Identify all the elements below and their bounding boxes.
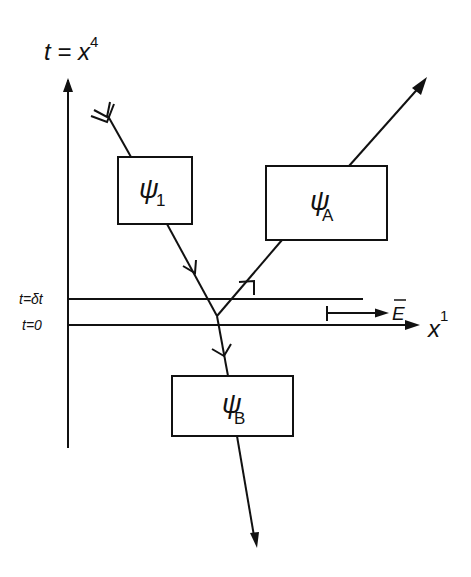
incoming-worldline: [91, 102, 131, 157]
space-axis: [68, 320, 420, 330]
time-axis: [63, 78, 73, 448]
box-psi1: ψ 1: [118, 157, 192, 224]
worldline-vertex-psiA: [217, 240, 282, 316]
space-axis-label: x1: [427, 307, 448, 342]
spacetime-diagram: t = x4 t=δt t=0 x1 E: [0, 0, 471, 577]
time-line-zero-label: t=0: [22, 317, 42, 333]
outgoing-worldline-A: [349, 77, 427, 166]
box-psiB: ψ B: [172, 376, 293, 436]
svg-text:B: B: [234, 409, 245, 428]
box-psiA: ψ A: [266, 166, 387, 240]
field-arrow-icon: [327, 306, 389, 321]
svg-text:A: A: [322, 206, 334, 225]
field-label: E: [392, 303, 405, 324]
outgoing-worldline-B: [237, 436, 259, 548]
svg-text:1: 1: [156, 191, 165, 210]
worldline-psi1-vertex: [167, 224, 217, 316]
time-line-delta-t-label: t=δt: [19, 291, 44, 307]
time-axis-label: t = x4: [44, 33, 98, 65]
